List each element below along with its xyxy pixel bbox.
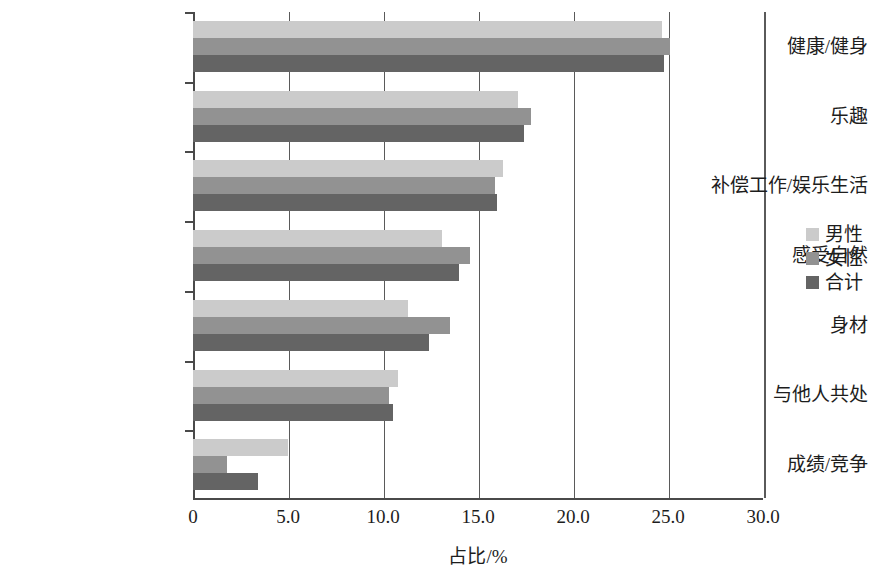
legend-item: 合计 (806, 270, 863, 294)
legend-label: 合计 (825, 273, 863, 292)
category-label: 健康/健身 (691, 37, 876, 56)
bar-chart: 健康/健身乐趣补偿工作/娱乐生活感受自然身材与他人共处成绩/竞争 05.010.… (0, 0, 876, 575)
bar (193, 247, 470, 264)
bar (193, 300, 408, 317)
bar (193, 177, 495, 194)
bar (193, 439, 288, 456)
x-axis-tick-label: 0 (153, 506, 233, 528)
bar (193, 404, 393, 421)
category-label: 与他人共处 (691, 385, 876, 404)
x-axis-tick-label: 30.0 (723, 506, 803, 528)
bar (193, 334, 429, 351)
bar-group (193, 151, 763, 221)
category-label: 乐趣 (691, 107, 876, 126)
legend: 男性女性合计 (806, 222, 863, 294)
x-axis-tick-label: 15.0 (438, 506, 518, 528)
bar (193, 370, 398, 387)
category-label: 身材 (691, 316, 876, 335)
x-axis-tick-label: 20.0 (533, 506, 613, 528)
legend-swatch-icon (806, 228, 819, 241)
bar (193, 125, 524, 142)
legend-swatch-icon (806, 252, 819, 265)
legend-swatch-icon (806, 276, 819, 289)
legend-item: 男性 (806, 222, 863, 246)
x-axis-title: 占比/% (193, 541, 763, 568)
bar (193, 387, 389, 404)
bar (193, 21, 662, 38)
legend-label: 女性 (825, 249, 863, 268)
category-label: 补偿工作/娱乐生活 (691, 176, 876, 195)
bar (193, 108, 531, 125)
bar (193, 456, 227, 473)
bar-group (193, 12, 763, 82)
bar-group (193, 361, 763, 431)
bar (193, 264, 459, 281)
bar (193, 91, 518, 108)
bar-group (193, 221, 763, 291)
bar (193, 55, 664, 72)
bar (193, 160, 503, 177)
x-axis-tick-label: 10.0 (343, 506, 423, 528)
bar-group (193, 430, 763, 500)
legend-item: 女性 (806, 246, 863, 270)
bar-group (193, 291, 763, 361)
bar-group (193, 82, 763, 152)
category-label: 成绩/竞争 (691, 455, 876, 474)
bar (193, 317, 450, 334)
bar (193, 230, 442, 247)
bar (193, 194, 497, 211)
bar (193, 38, 670, 55)
x-axis-tick-label: 25.0 (628, 506, 708, 528)
x-axis-tick-label: 5.0 (248, 506, 328, 528)
legend-label: 男性 (825, 225, 863, 244)
bar (193, 473, 258, 490)
